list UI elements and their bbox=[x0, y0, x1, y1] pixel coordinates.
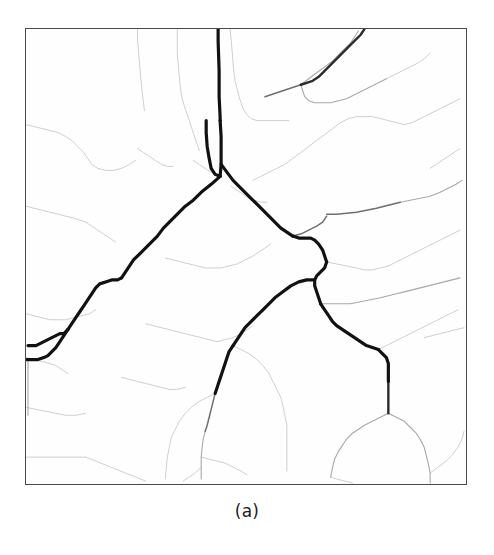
panel-background bbox=[26, 29, 466, 484]
drainage-network-svg bbox=[26, 29, 466, 484]
drainage-network-panel bbox=[25, 28, 467, 485]
channel-trunk-upper-stem bbox=[220, 121, 221, 177]
figure-caption: (a) bbox=[0, 501, 494, 521]
figure-root: (a) bbox=[0, 0, 494, 555]
